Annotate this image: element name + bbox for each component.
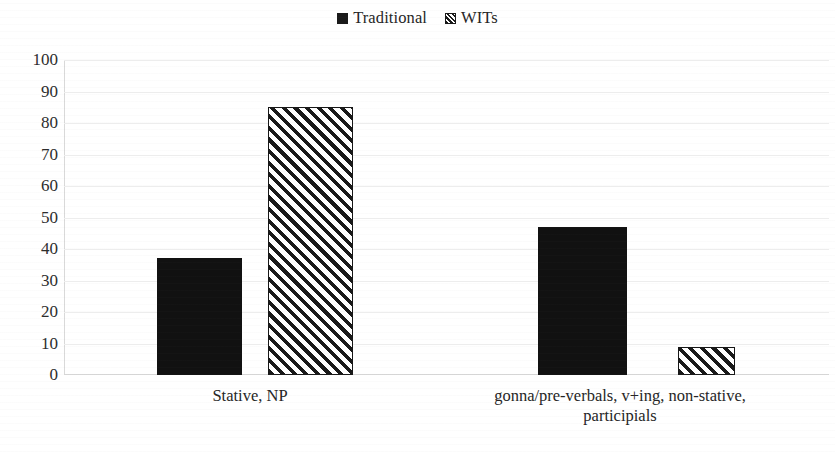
solid-square-icon [337, 13, 348, 24]
chart-legend: Traditional WITs [0, 10, 835, 26]
bar-wits-stative-np[interactable] [268, 107, 353, 375]
plot-area [64, 60, 829, 375]
gridline-70 [64, 155, 829, 156]
gridline-100 [64, 60, 829, 61]
y-tick-90: 90 [6, 83, 58, 100]
bar-wits-gonna-group[interactable] [678, 347, 735, 375]
legend-entry-wits[interactable]: WITs [445, 10, 498, 26]
y-tick-30: 30 [6, 272, 58, 289]
gridline-80 [64, 123, 829, 124]
y-tick-80: 80 [6, 114, 58, 131]
hatched-square-icon [445, 13, 456, 24]
x-category-label-1-line-1: participials [420, 406, 820, 426]
y-tick-60: 60 [6, 177, 58, 194]
x-category-label-1: gonna/pre-verbals, v+ing, non-stative, p… [420, 386, 820, 426]
x-category-label-1-line-0: gonna/pre-verbals, v+ing, non-stative, [420, 386, 820, 406]
y-axis-tick-labels: 100 90 80 70 60 50 40 30 20 10 0 [0, 60, 58, 375]
y-tick-0: 0 [6, 366, 58, 383]
bar-traditional-gonna-group[interactable] [538, 227, 627, 375]
gridline-60 [64, 186, 829, 187]
legend-label-traditional: Traditional [353, 10, 427, 26]
bar-traditional-stative-np[interactable] [157, 258, 242, 375]
bar-chart-figure: Traditional WITs 100 90 80 70 60 50 40 3… [0, 0, 835, 452]
legend-label-wits: WITs [461, 10, 498, 26]
gridline-40 [64, 249, 829, 250]
gridline-90 [64, 92, 829, 93]
x-category-label-0: Stative, NP [100, 386, 400, 406]
y-tick-40: 40 [6, 240, 58, 257]
x-category-label-0-line-0: Stative, NP [100, 386, 400, 406]
y-tick-10: 10 [6, 335, 58, 352]
y-tick-100: 100 [6, 51, 58, 68]
y-tick-20: 20 [6, 303, 58, 320]
y-tick-50: 50 [6, 209, 58, 226]
legend-entry-traditional[interactable]: Traditional [337, 10, 427, 26]
y-tick-70: 70 [6, 146, 58, 163]
gridline-50 [64, 218, 829, 219]
